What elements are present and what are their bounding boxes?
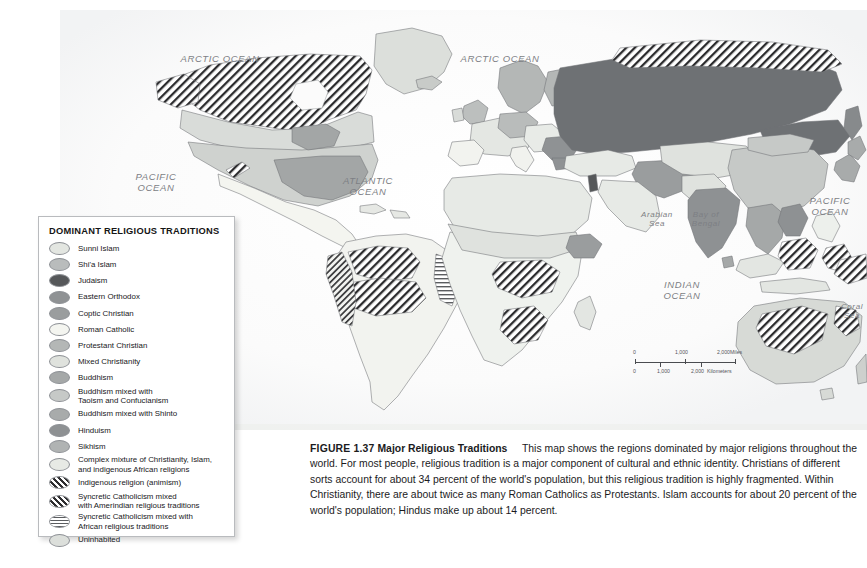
figure-caption: FIGURE 1.37 Major Religious Traditions T…: [310, 441, 858, 518]
legend-swatch-solid: [49, 339, 70, 352]
legend-item-label: Coptic Christian: [78, 309, 134, 318]
scale-bar-miles-row: 0 1,000 2,000 Miles: [633, 349, 745, 359]
legend-item: Hinduism: [39, 422, 234, 438]
legend-swatch-solid: [49, 424, 70, 437]
legend-item-label: Complex mixture of Christianity, Islam, …: [78, 455, 212, 474]
mongolia: [748, 134, 814, 156]
legend-item-label: Shi'a Islam: [78, 260, 116, 269]
scale-km-tick-1000: 1,000: [657, 368, 670, 374]
ireland: [452, 108, 464, 122]
legend-swatch-solid: [49, 389, 70, 402]
legend-item: Eastern Orthodox: [39, 289, 234, 305]
figure-title: Major Religious Traditions: [377, 443, 507, 454]
legend-list: Sunni IslamShi'a IslamJudaismEastern Ort…: [39, 241, 234, 548]
map-legend: DOMINANT RELIGIOUS TRADITIONS Sunni Isla…: [38, 216, 235, 537]
legend-item-label: Hinduism: [78, 426, 111, 435]
figure-root: ARCTIC OCEANARCTIC OCEANPACIFIC OCEANATL…: [0, 0, 867, 568]
legend-item: Sikhism: [39, 439, 234, 455]
legend-item-label: Roman Catholic: [78, 325, 134, 334]
legend-swatch-solid: [49, 291, 70, 304]
legend-swatch-diagonal-hatch: [49, 495, 70, 508]
scale-mark-1: [685, 359, 686, 364]
legend-item: Mixed Christianity: [39, 354, 234, 370]
legend-swatch-solid: [49, 307, 70, 320]
legend-item-label: Syncretic Catholicism mixed with Amerind…: [78, 492, 200, 511]
scale-km-tick-2000: 2,000: [691, 368, 704, 374]
legend-item: Syncretic Catholicism mixed with Amerind…: [39, 491, 234, 511]
legend-item-label: Judaism: [78, 276, 107, 285]
legend-swatch-solid: [49, 458, 70, 471]
legend-item-label: Indigenous religion (animism): [78, 478, 181, 487]
legend-item-label: Buddhism mixed with Shinto: [78, 409, 177, 418]
legend-item-label: Eastern Orthodox: [78, 292, 140, 301]
legend-swatch-solid: [49, 258, 70, 271]
legend-item-label: Sunni Islam: [78, 244, 119, 253]
legend-item: Buddhism mixed with Taoism and Confucian…: [39, 386, 234, 406]
legend-item: Buddhism mixed with Shinto: [39, 406, 234, 422]
tasmania: [820, 388, 834, 400]
legend-item: Syncretic Catholicism mixed with African…: [39, 512, 234, 532]
legend-item-label: Uninhabited: [78, 535, 120, 544]
legend-item: Protestant Christian: [39, 338, 234, 354]
legend-item: Judaism: [39, 273, 234, 289]
scale-bar-km-row: 0 1,000 2,000 Kilometers: [633, 368, 745, 378]
legend-swatch-solid: [49, 355, 70, 368]
scale-miles-tick-0: 0: [633, 349, 636, 355]
scale-mark-2: [735, 359, 736, 364]
legend-swatch-solid: [49, 371, 70, 384]
scale-bar: 0 1,000 2,000 Miles 0 1,000 2,000 Kilome…: [633, 349, 745, 379]
scale-miles-unit: Miles: [730, 349, 742, 355]
sri-lanka: [722, 256, 734, 268]
scale-mark-km-1: [660, 362, 661, 367]
scale-mark-0: [635, 359, 636, 364]
figure-number: FIGURE 1.37: [310, 443, 375, 454]
legend-item-label: Sikhism: [78, 442, 106, 451]
legend-item-label: Protestant Christian: [78, 341, 147, 350]
legend-item: Shi'a Islam: [39, 257, 234, 273]
legend-item: Complex mixture of Christianity, Islam, …: [39, 455, 234, 475]
legend-item: Roman Catholic: [39, 321, 234, 337]
legend-item: Uninhabited: [39, 532, 234, 548]
legend-item-label: Mixed Christianity: [78, 357, 140, 366]
legend-item: Indigenous religion (animism): [39, 475, 234, 491]
legend-swatch-solid: [49, 408, 70, 421]
legend-swatch-solid: [49, 534, 70, 547]
legend-item-label: Buddhism: [78, 373, 113, 382]
levant-judaism: [588, 174, 598, 192]
scale-miles-tick-2000: 2,000: [717, 349, 730, 355]
scale-km-unit: Kilometers: [707, 368, 732, 374]
legend-swatch-solid: [49, 440, 70, 453]
legend-item-label: Syncretic Catholicism mixed with African…: [78, 512, 193, 531]
legend-title: DOMINANT RELIGIOUS TRADITIONS: [49, 226, 234, 236]
scale-miles-tick-1000: 1,000: [675, 349, 688, 355]
legend-item-label: Buddhism mixed with Taoism and Confucian…: [78, 387, 168, 406]
legend-swatch-solid: [49, 242, 70, 255]
legend-item: Sunni Islam: [39, 241, 234, 257]
scale-mark-km-2: [701, 362, 702, 367]
scale-km-tick-0: 0: [633, 368, 636, 374]
legend-item: Buddhism: [39, 370, 234, 386]
legend-swatch-solid: [49, 323, 70, 336]
legend-swatch-solid: [49, 274, 70, 287]
legend-swatch-diagonal-hatch: [49, 476, 70, 489]
legend-swatch-horizontal-hatch: [49, 515, 70, 528]
legend-item: Coptic Christian: [39, 305, 234, 321]
